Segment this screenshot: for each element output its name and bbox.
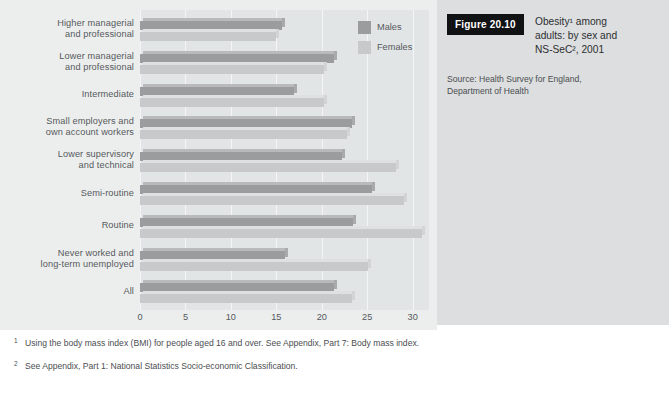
bar-females-3: [140, 127, 429, 139]
bar-body: [140, 32, 276, 41]
bar-body: [140, 294, 352, 303]
category-label-8: All: [8, 286, 134, 297]
footnotes-block: 1 Using the body mass index (BMI) for pe…: [0, 330, 437, 393]
bar-front-face: [140, 130, 347, 139]
category-label-line: long-term unemployed: [8, 259, 134, 270]
figure-source: Source: Health Survey for England,Depart…: [447, 74, 657, 97]
bar-side-face: [352, 116, 355, 125]
figure-page: Higher managerialand professionalLower m…: [0, 0, 669, 393]
bar-side-face: [396, 160, 399, 169]
footnote-1: 1 Using the body mass index (BMI) for pe…: [14, 338, 434, 350]
figure-number-badge: Figure 20.10: [447, 14, 524, 35]
figure-title: Obesity¹ amongadults: by sex andNS-SeC²,…: [535, 15, 655, 57]
category-label-line: Small employers and: [8, 116, 134, 127]
category-axis-labels: Higher managerialand professionalLower m…: [0, 0, 134, 320]
bar-side-face: [422, 226, 425, 235]
value-axis: 051015202530: [140, 310, 429, 328]
x-tick-label-15: 15: [271, 312, 281, 322]
bar-females-5: [140, 193, 429, 205]
bar-front-face: [140, 294, 352, 303]
category-label-3: Small employers andown account workers: [8, 116, 134, 138]
legend-label-males: Males: [377, 22, 402, 32]
category-label-line: Routine: [8, 220, 134, 231]
bar-body: [140, 196, 404, 205]
bar-body: [140, 229, 422, 238]
bar-front-face: [140, 262, 368, 271]
bar-body: [140, 262, 368, 271]
category-label-7: Never worked andlong-term unemployed: [8, 248, 134, 270]
bar-females-1: [140, 62, 429, 74]
footnote-1-text: Using the body mass index (BMI) for peop…: [14, 338, 434, 350]
footnote-2: 2 See Appendix, Part 1: National Statist…: [14, 361, 434, 373]
footnote-2-text: See Appendix, Part 1: National Statistic…: [14, 361, 434, 373]
category-label-1: Lower managerialand professional: [8, 51, 134, 73]
bar-side-face: [324, 62, 327, 71]
category-label-line: and professional: [8, 62, 134, 73]
chart-panel: Higher managerialand professionalLower m…: [0, 0, 437, 330]
figure-title-line: NS-SeC², 2001: [535, 43, 655, 57]
bar-front-face: [140, 196, 404, 205]
bar-side-face: [404, 193, 407, 202]
category-label-0: Higher managerialand professional: [8, 18, 134, 40]
bar-females-6: [140, 226, 429, 238]
figure-title-line: adults: by sex and: [535, 29, 655, 43]
category-label-5: Semi-routine: [8, 188, 134, 199]
bar-side-face: [334, 51, 337, 60]
legend-label-females: Females: [377, 42, 412, 52]
chart-legend: Males Females: [358, 20, 430, 62]
x-tick-label-30: 30: [408, 312, 418, 322]
bar-body: [140, 65, 324, 74]
footnote-1-marker: 1: [14, 335, 18, 347]
category-label-line: and professional: [8, 29, 134, 40]
bar-side-face: [282, 18, 285, 27]
x-tick-label-20: 20: [317, 312, 327, 322]
x-tick-label-0: 0: [137, 312, 142, 322]
category-label-line: Never worked and: [8, 248, 134, 259]
figure-source-line: Source: Health Survey for England,: [447, 74, 657, 86]
legend-swatch-males: [358, 21, 371, 34]
legend-swatch-females: [358, 41, 371, 54]
category-label-2: Intermediate: [8, 89, 134, 100]
bar-side-face: [294, 84, 297, 93]
bar-front-face: [140, 65, 324, 74]
bar-body: [140, 130, 347, 139]
figure-caption-panel: Figure 20.10 Obesity¹ amongadults: by se…: [437, 0, 669, 325]
figure-source-line: Department of Health: [447, 86, 657, 98]
bar-front-face: [140, 229, 422, 238]
bar-front-face: [140, 98, 324, 107]
category-label-line: Lower managerial: [8, 51, 134, 62]
category-label-6: Routine: [8, 220, 134, 231]
x-tick-label-25: 25: [362, 312, 372, 322]
category-label-line: and technical: [8, 160, 134, 171]
bar-body: [140, 98, 324, 107]
category-label-line: Intermediate: [8, 89, 134, 100]
legend-item-males: Males: [358, 20, 430, 37]
category-label-line: Semi-routine: [8, 188, 134, 199]
bar-side-face: [276, 29, 279, 38]
bar-side-face: [342, 149, 345, 158]
bar-side-face: [347, 127, 350, 136]
bar-side-face: [372, 182, 375, 191]
category-label-4: Lower supervisoryand technical: [8, 149, 134, 171]
category-label-line: All: [8, 286, 134, 297]
bar-side-face: [285, 248, 288, 257]
bar-females-2: [140, 95, 429, 107]
category-label-line: Higher managerial: [8, 18, 134, 29]
bar-side-face: [352, 291, 355, 300]
category-label-line: own account workers: [8, 127, 134, 138]
bar-body: [140, 163, 396, 172]
bar-front-face: [140, 163, 396, 172]
bar-side-face: [334, 280, 337, 289]
footnote-2-marker: 2: [14, 358, 18, 370]
bar-females-8: [140, 291, 429, 303]
bar-side-face: [368, 259, 371, 268]
x-tick-label-5: 5: [183, 312, 188, 322]
bar-females-7: [140, 259, 429, 271]
bar-females-4: [140, 160, 429, 172]
legend-item-females: Females: [358, 40, 430, 57]
x-tick-label-10: 10: [226, 312, 236, 322]
category-label-line: Lower supervisory: [8, 149, 134, 160]
bar-side-face: [353, 215, 356, 224]
bar-side-face: [324, 95, 327, 104]
bar-front-face: [140, 32, 276, 41]
